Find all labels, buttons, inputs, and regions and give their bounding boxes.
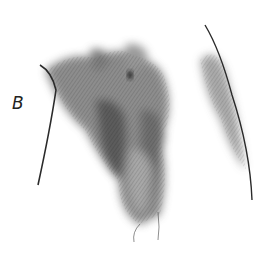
sketch-canvas: B: [0, 0, 264, 254]
figure-label: B: [12, 93, 24, 113]
pencil-sketch: [0, 0, 264, 254]
